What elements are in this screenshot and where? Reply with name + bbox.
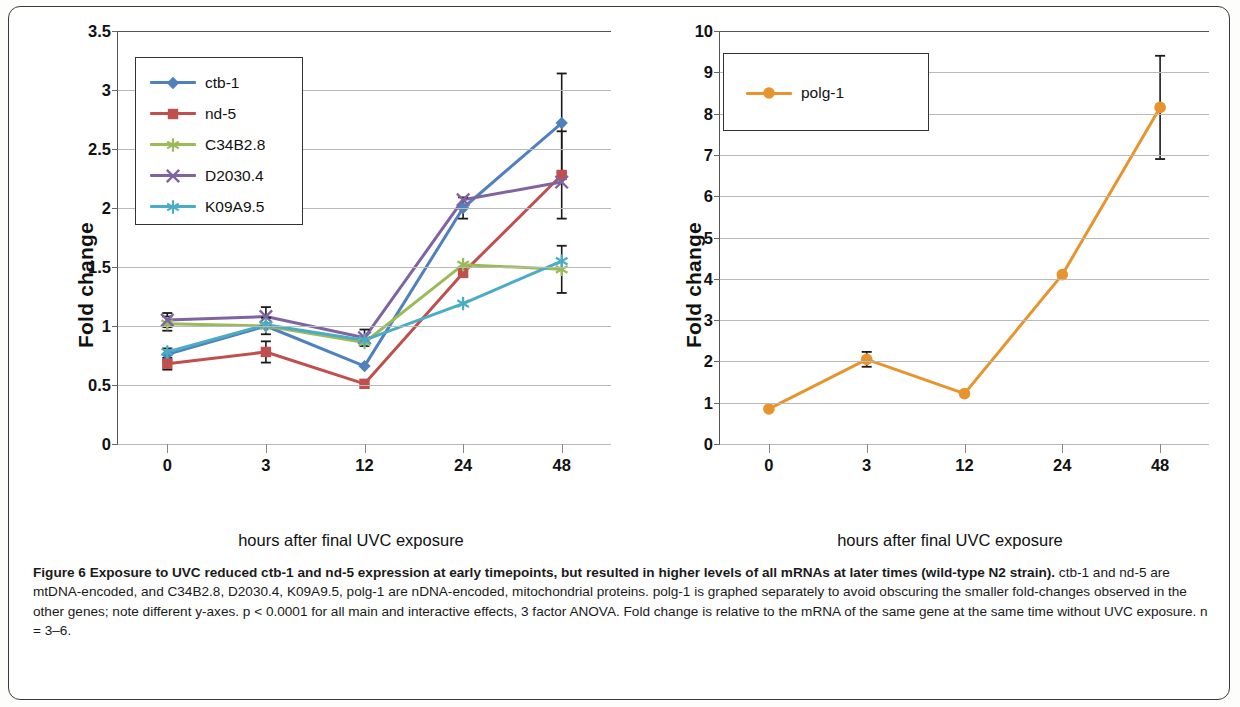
x-tick-mark	[266, 444, 267, 453]
x-axis-label-left: hours after final UVC exposure	[15, 531, 627, 550]
x-axis-label-right: hours after final UVC exposure	[629, 531, 1225, 550]
y-tick-label: 2	[704, 352, 713, 371]
y-tick-label: 3	[102, 81, 111, 100]
y-tick-mark	[112, 385, 118, 386]
y-tick-mark	[714, 155, 720, 156]
x-tick-label: 3	[261, 456, 270, 475]
x-tick-mark	[463, 444, 464, 453]
y-tick-label: 2	[102, 199, 111, 218]
gridline	[720, 403, 1209, 404]
y-tick-mark	[714, 320, 720, 321]
y-tick-label: 4	[704, 269, 713, 288]
gridline	[720, 361, 1209, 362]
y-tick-label: 9	[704, 63, 713, 82]
legend-marker-icon	[150, 76, 196, 90]
charts-row: Fold change 00.511.522.533.503122448 ctb…	[9, 7, 1231, 555]
x-tick-mark	[365, 444, 366, 453]
x-tick-label: 12	[955, 456, 973, 475]
y-tick-mark	[714, 196, 720, 197]
gridline	[720, 196, 1209, 197]
y-tick-mark	[714, 361, 720, 362]
gridline	[720, 155, 1209, 156]
legend-item-ctb-1[interactable]: ctb-1	[136, 67, 302, 98]
x-tick-mark	[562, 444, 563, 453]
gridline	[720, 320, 1209, 321]
x-tick-label: 3	[862, 456, 871, 475]
gridline	[720, 279, 1209, 280]
y-tick-mark	[714, 72, 720, 73]
gridline	[118, 267, 611, 268]
legend-label: ctb-1	[205, 74, 239, 92]
x-tick-mark	[769, 444, 770, 453]
y-tick-mark	[714, 403, 720, 404]
y-tick-mark	[112, 267, 118, 268]
y-tick-label: 6	[704, 187, 713, 206]
y-tick-label: 10	[695, 22, 713, 41]
x-tick-label: 12	[355, 456, 373, 475]
legend-left: ctb-1nd-5C34B2.8D2030.4K09A9.5	[135, 57, 303, 225]
y-tick-mark	[714, 114, 720, 115]
legend-item-c34b2-8[interactable]: C34B2.8	[136, 129, 302, 160]
chart-panel-left: Fold change 00.511.522.533.503122448 ctb…	[15, 17, 627, 552]
x-tick-mark	[167, 444, 168, 453]
y-tick-label: 0	[102, 435, 111, 454]
y-tick-mark	[112, 31, 118, 32]
gridline	[118, 326, 611, 327]
figure-frame: Fold change 00.511.522.533.503122448 ctb…	[8, 6, 1230, 700]
figure-caption: Figure 6 Exposure to UVC reduced ctb-1 a…	[33, 563, 1213, 640]
legend-marker-icon	[150, 138, 196, 152]
x-tick-mark	[1160, 444, 1161, 453]
figure-label: Figure 6	[33, 565, 86, 580]
legend-label: C34B2.8	[205, 136, 265, 154]
legend-item-polg-1[interactable]: polg-1	[724, 54, 928, 132]
y-tick-label: 2.5	[88, 140, 111, 159]
x-tick-label: 0	[764, 456, 773, 475]
gridline	[720, 31, 1209, 32]
y-tick-mark	[112, 444, 118, 445]
y-tick-mark	[112, 90, 118, 91]
y-tick-mark	[112, 149, 118, 150]
y-tick-mark	[112, 208, 118, 209]
y-tick-label: 3.5	[88, 22, 111, 41]
y-tick-mark	[112, 326, 118, 327]
x-tick-mark	[1062, 444, 1063, 453]
legend-label: polg-1	[801, 84, 844, 102]
legend-item-k09a9-5[interactable]: K09A9.5	[136, 191, 302, 222]
gridline	[118, 31, 611, 32]
y-tick-mark	[714, 444, 720, 445]
legend-label: nd-5	[205, 105, 236, 123]
y-tick-label: 1.5	[88, 258, 111, 277]
legend-label: K09A9.5	[205, 198, 264, 216]
gridline	[118, 385, 611, 386]
y-tick-mark	[714, 279, 720, 280]
y-tick-mark	[714, 238, 720, 239]
legend-marker-icon	[150, 107, 196, 121]
x-tick-label: 0	[163, 456, 172, 475]
y-tick-label: 0	[704, 435, 713, 454]
plot-wrap-right: 01234567891003122448 polg-1	[675, 31, 1211, 481]
plot-wrap-left: 00.511.522.533.503122448 ctb-1nd-5C34B2.…	[73, 31, 613, 481]
y-tick-label: 7	[704, 145, 713, 164]
x-tick-mark	[867, 444, 868, 453]
y-tick-label: 5	[704, 228, 713, 247]
x-tick-label: 24	[454, 456, 472, 475]
y-tick-mark	[714, 31, 720, 32]
y-tick-label: 0.5	[88, 376, 111, 395]
x-tick-label: 48	[1151, 456, 1169, 475]
legend-marker-icon	[150, 200, 196, 214]
gridline	[720, 238, 1209, 239]
legend-marker-icon	[150, 169, 196, 183]
chart-panel-right: Fold change 01234567891003122448 polg-1 …	[629, 17, 1225, 552]
x-tick-mark	[965, 444, 966, 453]
legend-item-d2030-4[interactable]: D2030.4	[136, 160, 302, 191]
y-tick-label: 8	[704, 104, 713, 123]
legend-item-nd-5[interactable]: nd-5	[136, 98, 302, 129]
legend-right: polg-1	[723, 53, 929, 131]
y-tick-label: 3	[704, 311, 713, 330]
y-tick-label: 1	[102, 317, 111, 336]
legend-marker-icon	[746, 86, 792, 100]
y-tick-label: 1	[704, 393, 713, 412]
legend-label: D2030.4	[205, 167, 264, 185]
x-tick-label: 24	[1053, 456, 1071, 475]
x-tick-label: 48	[553, 456, 571, 475]
